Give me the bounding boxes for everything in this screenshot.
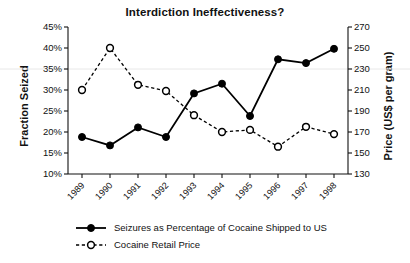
data-point-1-8 [303,123,310,130]
y-axis-right-tick-label: 210 [354,84,370,95]
y-axis-right-tick-label: 250 [354,42,370,53]
y-axis-right-tick-label: 230 [354,63,370,74]
x-axis-tick-label: 1991 [121,180,142,201]
y-axis-left-tick-label: 20% [43,126,63,137]
series-line-1 [82,48,334,147]
x-axis-tick-label: 1997 [289,180,310,201]
data-point-1-0 [79,87,86,94]
data-point-0-0 [79,134,86,141]
data-point-0-5 [219,80,226,87]
legend-label-1: Cocaine Retail Price [114,239,200,250]
chart-legend: Seizures as Percentage of Cocaine Shippe… [76,222,327,250]
y-axis-right-tick-label: 190 [354,105,370,116]
y-axis-right-tick-label: 130 [354,168,370,179]
data-point-1-2 [135,81,142,88]
y-axis-right-tick-label: 270 [354,21,370,32]
x-axis-tick-label: 1992 [149,180,170,201]
data-point-0-9 [331,45,338,52]
data-point-1-1 [107,45,114,52]
x-axis-tick-label: 1995 [233,180,254,201]
chart-figure: Interdiction Ineffectiveness? Fraction S… [0,0,410,263]
y-axis-left-tick-label: 15% [43,147,63,158]
y-axis-right-tick-label: 150 [354,147,370,158]
data-point-0-4 [191,90,198,97]
x-axis-tick-label: 1989 [65,180,86,201]
legend-label-0: Seizures as Percentage of Cocaine Shippe… [114,222,327,233]
x-axis-tick-label: 1990 [93,180,114,201]
y-axis-left-tick-label: 35% [43,63,63,74]
data-point-1-4 [191,112,198,119]
legend-marker-0 [88,225,95,232]
x-axis: 1989199019911992199319941995199619971998 [65,174,348,202]
y-axis-right-tick-label: 170 [354,126,370,137]
y-axis-left-tick-label: 30% [43,84,63,95]
data-point-0-7 [275,56,282,63]
series-layer [79,45,338,151]
legend-marker-1 [88,242,95,249]
y-axis-left: 10%15%20%25%30%35%40%45% [43,21,68,179]
data-point-0-6 [247,113,254,120]
y-axis-left-tick-label: 25% [43,105,63,116]
x-axis-tick-label: 1996 [261,180,282,201]
x-axis-tick-label: 1993 [177,180,198,201]
data-point-1-5 [219,129,226,136]
data-point-1-6 [247,126,254,133]
data-point-1-7 [275,143,282,150]
data-point-0-1 [107,142,114,149]
x-axis-tick-label: 1998 [317,180,338,201]
x-axis-tick-label: 1994 [205,180,226,201]
plot-area: 10%15%20%25%30%35%40%45% 130150170190210… [0,0,410,263]
series-line-0 [82,49,334,146]
data-point-0-3 [163,134,170,141]
data-point-0-8 [303,60,310,67]
y-axis-left-tick-label: 40% [43,42,63,53]
y-axis-left-tick-label: 45% [43,21,63,32]
data-point-1-9 [331,131,338,138]
y-axis-right: 130150170190210230250270 [348,21,370,179]
data-point-1-3 [163,88,170,95]
data-point-0-2 [135,124,142,131]
y-axis-left-tick-label: 10% [43,168,63,179]
